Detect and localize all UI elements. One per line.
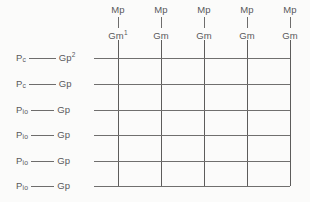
- vertical-grid-line-3: [204, 40, 205, 186]
- column-top-label: Mp: [184, 4, 224, 15]
- column-connector-tick: [204, 17, 205, 28]
- row-left-subscript: io: [23, 108, 29, 115]
- row-right-label-text: Gp: [59, 52, 72, 63]
- column-header-5: MpGm: [270, 4, 310, 41]
- column-header-3: MpGm: [184, 4, 224, 41]
- row-left-subscript: io: [23, 184, 29, 191]
- horizontal-grid-line-5: [94, 161, 290, 162]
- horizontal-grid-line-4: [94, 135, 290, 136]
- row-left-label: Pio: [16, 180, 28, 192]
- column-bottom-label-text: Gm: [108, 30, 124, 41]
- column-top-label: Mp: [141, 4, 181, 15]
- column-connector-tick: [161, 17, 162, 28]
- row-left-label-text: P: [16, 155, 23, 166]
- column-top-label: Mp: [227, 4, 267, 15]
- horizontal-grid-line-6: [94, 186, 290, 187]
- row-label-group-5: PioGp: [16, 155, 70, 167]
- row-left-label-text: P: [16, 180, 23, 191]
- vertical-grid-line-1: [118, 40, 119, 186]
- column-connector-tick: [290, 17, 291, 28]
- row-right-label: Gp: [57, 155, 70, 167]
- row-left-label-text: P: [16, 129, 23, 140]
- grid-diagram: MpGm1MpGmMpGmMpGmMpGm PcGp2PcGpPioGpPioG…: [0, 0, 310, 202]
- row-left-label: Pc: [16, 78, 26, 90]
- vertical-grid-line-4: [247, 40, 248, 186]
- column-bottom-superscript: 1: [124, 29, 128, 36]
- row-right-label-text: Gp: [57, 180, 70, 191]
- row-right-label-text: Gp: [57, 104, 70, 115]
- horizontal-grid-line-3: [94, 110, 290, 111]
- row-label-group-4: PioGp: [16, 129, 70, 141]
- row-right-label: Gp: [59, 78, 72, 90]
- row-right-label: Gp: [57, 129, 70, 141]
- row-connector-line: [29, 58, 56, 59]
- row-left-label-text: P: [16, 78, 23, 89]
- row-label-group-1: PcGp2: [16, 52, 76, 64]
- horizontal-grid-line-2: [94, 84, 290, 85]
- column-top-label: Mp: [270, 4, 310, 15]
- column-header-1: MpGm1: [98, 4, 138, 41]
- row-left-label-text: P: [16, 104, 23, 115]
- horizontal-grid-line-1: [94, 58, 290, 59]
- row-left-label: Pio: [16, 155, 28, 167]
- row-right-label: Gp: [57, 180, 70, 192]
- row-connector-line: [31, 186, 54, 187]
- row-label-group-6: PioGp: [16, 180, 70, 192]
- column-header-4: MpGm: [227, 4, 267, 41]
- row-left-label-text: P: [16, 52, 23, 63]
- row-right-superscript: 2: [72, 51, 76, 58]
- row-right-label: Gp2: [59, 52, 76, 64]
- row-connector-line: [31, 161, 54, 162]
- row-right-label-text: Gp: [59, 78, 72, 89]
- row-label-group-2: PcGp: [16, 78, 72, 90]
- vertical-grid-line-2: [161, 40, 162, 186]
- row-connector-line: [31, 110, 54, 111]
- row-left-subscript: c: [23, 56, 27, 63]
- row-left-label: Pio: [16, 129, 28, 141]
- row-right-label-text: Gp: [57, 129, 70, 140]
- column-connector-tick: [118, 17, 119, 28]
- vertical-grid-line-5: [290, 40, 291, 186]
- row-label-group-3: PioGp: [16, 104, 70, 116]
- row-left-subscript: io: [23, 133, 29, 140]
- row-connector-line: [31, 135, 54, 136]
- row-connector-line: [29, 84, 56, 85]
- row-left-label: Pio: [16, 104, 28, 116]
- column-header-2: MpGm: [141, 4, 181, 41]
- row-left-subscript: io: [23, 159, 29, 166]
- row-right-label-text: Gp: [57, 155, 70, 166]
- row-left-subscript: c: [23, 82, 27, 89]
- row-right-label: Gp: [57, 104, 70, 116]
- column-connector-tick: [247, 17, 248, 28]
- column-top-label: Mp: [98, 4, 138, 15]
- row-left-label: Pc: [16, 52, 26, 64]
